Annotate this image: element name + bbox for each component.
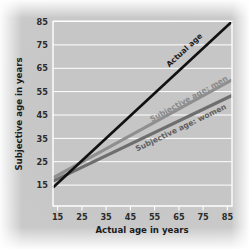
x-tick-label: 25: [76, 212, 88, 222]
x-tick-label: 85: [222, 212, 234, 222]
x-tick-labels: 15 25 35 45 55 65 75 85: [52, 212, 233, 222]
y-tick-label: 65: [37, 63, 49, 73]
line-chart: 85 75 65 55 45 35 25 15 15 25 35 45 55 6…: [0, 0, 249, 249]
x-tick-label: 45: [125, 212, 137, 222]
x-axis-title: Actual age in years: [95, 225, 188, 235]
x-tick-label: 65: [173, 212, 185, 222]
x-tick-label: 35: [100, 212, 112, 222]
y-tick-label: 75: [37, 40, 49, 50]
y-tick-label: 25: [37, 157, 49, 167]
y-tick-labels: 85 75 65 55 45 35 25 15: [37, 17, 49, 191]
y-tick-label: 15: [37, 180, 49, 190]
chart-figure: 85 75 65 55 45 35 25 15 15 25 35 45 55 6…: [0, 0, 249, 249]
x-tick-label: 15: [52, 212, 64, 222]
y-tick-label: 55: [37, 87, 49, 97]
x-tick-label: 75: [197, 212, 209, 222]
y-tick-label: 35: [37, 134, 49, 144]
y-tick-label: 45: [37, 110, 49, 120]
y-axis-title: Subjective age in years: [14, 57, 24, 170]
x-tick-label: 55: [149, 212, 161, 222]
y-tick-label: 85: [37, 17, 49, 27]
